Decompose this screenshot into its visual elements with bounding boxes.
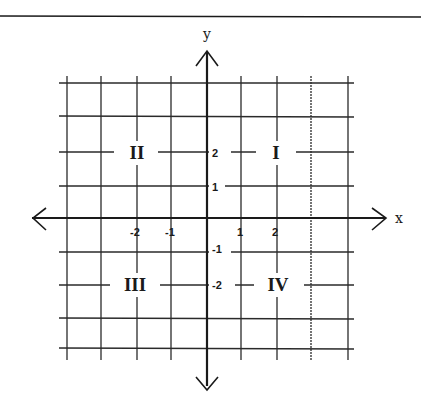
top-rule (0, 16, 421, 17)
quadrant-i-label: I (272, 142, 279, 163)
x-tick-label: -2 (130, 226, 140, 238)
y-tick-label: 2 (212, 147, 218, 159)
quadrant-iii-label: III (124, 274, 146, 295)
y-tick-label: -2 (212, 279, 222, 291)
x-tick-label: -1 (165, 226, 175, 238)
y-tick-label: 1 (212, 181, 218, 193)
quadrant-ii-label: II (130, 142, 145, 163)
coordinate-plane: y x -2 -1 1 2 2 1 -1 -2 I II III IV (0, 0, 431, 414)
x-tick-label: 2 (272, 226, 278, 238)
x-tick-label: 1 (237, 226, 243, 238)
quadrant-iv-label: IV (267, 274, 288, 295)
y-tick-label: -1 (212, 243, 222, 255)
x-axis-label: x (395, 210, 403, 226)
y-axis-label: y (202, 26, 211, 42)
